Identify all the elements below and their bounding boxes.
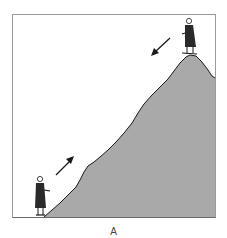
illustration [0,0,227,238]
figure-caption: A [0,226,227,237]
